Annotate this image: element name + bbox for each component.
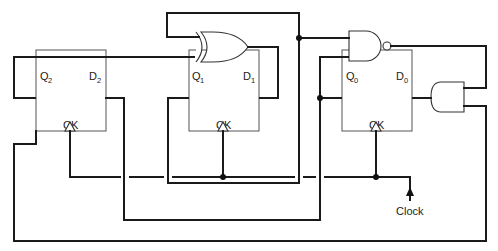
junction-dot-q1 [296, 35, 302, 41]
junction-dot-ck0 [373, 174, 379, 180]
junction-dot-q0 [317, 95, 323, 101]
ff0-d-sub: 0 [404, 76, 408, 85]
circuit-diagram: Q 2 D 2 CK Q 1 D 1 CK Q 0 D 0 CK [0, 0, 498, 251]
and-gate [431, 82, 464, 112]
flip-flop-1: Q 1 D 1 CK [189, 50, 259, 131]
nand-inversion-bubble-icon [383, 42, 391, 50]
ff0-q-sub: 0 [354, 76, 358, 85]
ff1-q-sub: 1 [200, 76, 204, 85]
ff1-d-label: D [243, 70, 251, 82]
clock-arrow-icon [406, 187, 414, 196]
ff2-d-sub: 2 [97, 76, 101, 85]
nand-gate-body [349, 31, 381, 61]
and-gate-body [431, 82, 464, 112]
clock-label: Clock [396, 205, 424, 217]
ff0-d-label: D [396, 70, 404, 82]
ff2-q-sub: 2 [48, 76, 52, 85]
ff2-d-label: D [89, 70, 97, 82]
ff1-d-sub: 1 [251, 76, 255, 85]
flip-flop-0: Q 0 D 0 CK [342, 50, 412, 131]
flip-flop-2: Q 2 D 2 CK [36, 50, 106, 131]
junction-dot-ck1 [220, 174, 226, 180]
wire-clock-ff2 [70, 131, 120, 177]
